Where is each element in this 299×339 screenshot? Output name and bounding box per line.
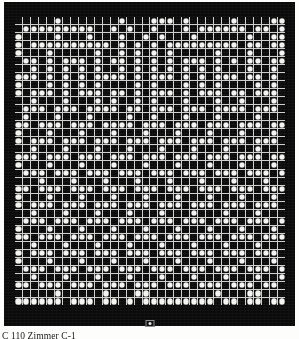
grid-cell-empty[interactable]	[222, 49, 229, 56]
grid-cell-empty[interactable]	[214, 137, 221, 144]
grid-cell-filled[interactable]	[79, 258, 86, 265]
grid-cell-filled[interactable]	[111, 129, 118, 136]
grid-cell-empty[interactable]	[71, 97, 78, 104]
grid-cell-filled[interactable]	[214, 153, 221, 160]
grid-cell-empty[interactable]	[254, 49, 261, 56]
grid-cell-empty[interactable]	[79, 218, 86, 225]
grid-cell-empty[interactable]	[166, 242, 173, 249]
grid-cell-filled[interactable]	[23, 186, 30, 193]
grid-cell-empty[interactable]	[206, 266, 213, 273]
grid-cell-filled[interactable]	[158, 145, 165, 152]
grid-cell-filled[interactable]	[174, 137, 181, 144]
grid-cell-empty[interactable]	[103, 49, 110, 56]
grid-cell-empty[interactable]	[127, 282, 134, 289]
grid-cell-filled[interactable]	[238, 250, 245, 257]
grid-cell-filled[interactable]	[254, 137, 261, 144]
grid-cell-filled[interactable]	[182, 113, 189, 120]
grid-cell-empty[interactable]	[190, 81, 197, 88]
grid-cell-empty[interactable]	[158, 49, 165, 56]
grid-cell-empty[interactable]	[95, 161, 102, 168]
grid-cell-empty[interactable]	[278, 129, 285, 136]
grid-cell-filled[interactable]	[55, 170, 62, 177]
grid-cell-filled[interactable]	[222, 202, 229, 209]
grid-cell-empty[interactable]	[79, 210, 86, 217]
grid-cell-filled[interactable]	[103, 121, 110, 128]
grid-cell-empty[interactable]	[182, 210, 189, 217]
grid-cell-empty[interactable]	[254, 178, 261, 185]
grid-cell-empty[interactable]	[23, 145, 30, 152]
grid-cell-filled[interactable]	[63, 73, 70, 80]
grid-cell-filled[interactable]	[254, 25, 261, 32]
grid-cell-filled[interactable]	[222, 153, 229, 160]
grid-cell-empty[interactable]	[111, 41, 118, 48]
grid-cell-empty[interactable]	[206, 73, 213, 80]
grid-cell-empty[interactable]	[262, 49, 269, 56]
grid-cell-empty[interactable]	[111, 33, 118, 40]
grid-cell-empty[interactable]	[143, 89, 150, 96]
grid-cell-filled[interactable]	[190, 145, 197, 152]
grid-cell-filled[interactable]	[39, 121, 46, 128]
dot-matrix-grid[interactable]	[15, 17, 285, 305]
grid-cell-filled[interactable]	[63, 145, 70, 152]
grid-cell-empty[interactable]	[63, 258, 70, 265]
grid-cell-filled[interactable]	[190, 202, 197, 209]
grid-cell-filled[interactable]	[246, 57, 253, 64]
grid-cell-filled[interactable]	[87, 121, 94, 128]
grid-cell-filled[interactable]	[87, 33, 94, 40]
grid-cell-filled[interactable]	[270, 41, 277, 48]
grid-cell-empty[interactable]	[246, 81, 253, 88]
grid-cell-filled[interactable]	[270, 33, 277, 40]
grid-cell-filled[interactable]	[95, 105, 102, 112]
grid-cell-filled[interactable]	[135, 250, 142, 257]
grid-cell-filled[interactable]	[63, 137, 70, 144]
grid-cell-filled[interactable]	[166, 41, 173, 48]
grid-cell-empty[interactable]	[278, 194, 285, 201]
grid-cell-empty[interactable]	[270, 290, 277, 297]
grid-cell-empty[interactable]	[230, 161, 237, 168]
grid-cell-empty[interactable]	[198, 113, 205, 120]
grid-cell-empty[interactable]	[63, 33, 70, 40]
grid-cell-empty[interactable]	[23, 97, 30, 104]
grid-cell-empty[interactable]	[111, 218, 118, 225]
grid-cell-empty[interactable]	[135, 121, 142, 128]
grid-cell-empty[interactable]	[230, 97, 237, 104]
grid-cell-filled[interactable]	[135, 105, 142, 112]
grid-cell-filled[interactable]	[143, 161, 150, 168]
grid-cell-filled[interactable]	[206, 202, 213, 209]
grid-cell-empty[interactable]	[214, 274, 221, 281]
grid-cell-filled[interactable]	[262, 234, 269, 241]
grid-cell-empty[interactable]	[150, 226, 157, 233]
grid-cell-filled[interactable]	[55, 113, 62, 120]
grid-cell-filled[interactable]	[174, 250, 181, 257]
grid-cell-empty[interactable]	[246, 178, 253, 185]
grid-cell-filled[interactable]	[270, 81, 277, 88]
grid-cell-filled[interactable]	[254, 81, 261, 88]
grid-cell-empty[interactable]	[31, 226, 38, 233]
grid-cell-empty[interactable]	[47, 218, 54, 225]
grid-cell-filled[interactable]	[135, 290, 142, 297]
grid-cell-filled[interactable]	[111, 105, 118, 112]
grid-cell-filled[interactable]	[214, 105, 221, 112]
grid-cell-filled[interactable]	[103, 186, 110, 193]
grid-cell-empty[interactable]	[238, 81, 245, 88]
grid-cell-empty[interactable]	[190, 129, 197, 136]
grid-cell-empty[interactable]	[71, 153, 78, 160]
grid-cell-filled[interactable]	[15, 49, 22, 56]
grid-cell-empty[interactable]	[79, 170, 86, 177]
grid-cell-empty[interactable]	[47, 97, 54, 104]
grid-cell-empty[interactable]	[31, 282, 38, 289]
grid-cell-empty[interactable]	[230, 153, 237, 160]
grid-cell-filled[interactable]	[174, 258, 181, 265]
grid-cell-filled[interactable]	[166, 298, 173, 305]
grid-cell-filled[interactable]	[79, 234, 86, 241]
grid-cell-filled[interactable]	[158, 202, 165, 209]
grid-cell-empty[interactable]	[127, 234, 134, 241]
grid-cell-empty[interactable]	[127, 73, 134, 80]
grid-cell-filled[interactable]	[31, 105, 38, 112]
grid-cell-empty[interactable]	[79, 274, 86, 281]
grid-cell-empty[interactable]	[119, 274, 126, 281]
grid-cell-filled[interactable]	[87, 266, 94, 273]
grid-cell-filled[interactable]	[206, 186, 213, 193]
grid-cell-filled[interactable]	[246, 41, 253, 48]
grid-cell-filled[interactable]	[47, 121, 54, 128]
